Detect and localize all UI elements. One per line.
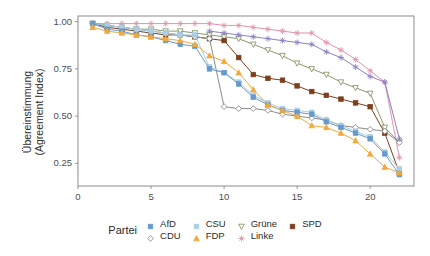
data-point-marker: [266, 76, 271, 81]
data-point-marker: [207, 36, 212, 41]
data-point-marker: [294, 39, 300, 45]
legend-marker-icon: [236, 218, 247, 229]
series-line: [210, 31, 400, 139]
data-point-marker: [90, 21, 95, 26]
legend-marker-icon: [145, 218, 156, 229]
data-point-marker: [309, 30, 315, 36]
data-point-marker: [207, 67, 212, 72]
legend-entry-fdp[interactable]: FDP: [191, 230, 226, 241]
data-point-marker: [250, 24, 256, 30]
data-point-marker: [207, 36, 213, 42]
data-point-marker: [236, 80, 241, 85]
legend-label: AfD: [160, 218, 176, 229]
chart-legend: Partei AfDCDUCSUFDPGrüneLinkeSPD: [0, 218, 430, 241]
data-point-marker: [163, 33, 168, 38]
data-point-marker: [382, 128, 388, 134]
data-point-marker: [382, 150, 387, 155]
series-linke: [90, 21, 403, 161]
legend-entry-grne[interactable]: Grüne: [236, 218, 277, 229]
data-point-marker: [134, 33, 139, 38]
data-point-marker: [90, 21, 96, 27]
data-point-marker: [353, 138, 359, 143]
x-tick-label: 10: [212, 191, 236, 202]
data-point-marker: [266, 101, 271, 106]
legend-marker-icon: [191, 218, 202, 229]
data-point-marker: [265, 48, 271, 53]
data-point-marker: [90, 21, 96, 27]
data-point-marker: [105, 25, 110, 30]
data-point-marker: [309, 41, 315, 47]
y-tick-label: 0.50: [38, 110, 72, 121]
data-point-marker: [134, 27, 140, 32]
data-point-marker: [104, 23, 110, 29]
data-point-marker: [163, 31, 168, 36]
series-csu: [90, 21, 401, 171]
data-point-marker: [396, 136, 402, 142]
data-point-marker: [368, 104, 373, 109]
data-point-marker: [250, 34, 256, 40]
data-point-marker: [309, 112, 314, 117]
data-point-marker: [192, 31, 198, 36]
series-fdp: [90, 24, 402, 175]
data-point-marker: [397, 170, 402, 175]
data-point-marker: [280, 78, 285, 83]
data-point-marker: [193, 236, 199, 241]
series-line: [93, 24, 400, 175]
data-point-marker: [194, 224, 199, 229]
y-tick-label: 0.25: [38, 157, 72, 168]
data-point-marker: [236, 106, 242, 112]
x-tick-label: 20: [358, 191, 382, 202]
legend-entry-cdu[interactable]: CDU: [145, 230, 181, 241]
data-point-marker: [280, 111, 286, 117]
data-point-marker: [353, 101, 358, 106]
data-point-marker: [397, 170, 403, 175]
data-point-marker: [104, 21, 110, 27]
data-point-marker: [207, 53, 213, 58]
data-point-marker: [382, 152, 387, 157]
data-point-marker: [265, 36, 271, 42]
data-point-marker: [265, 102, 271, 107]
y-tick-label: 1.00: [38, 16, 72, 27]
data-point-marker: [353, 131, 358, 136]
data-point-marker: [236, 32, 242, 38]
data-point-marker: [280, 108, 285, 113]
x-tick-label: 15: [285, 191, 309, 202]
data-point-marker: [148, 28, 154, 34]
data-point-marker: [323, 39, 329, 45]
data-point-marker: [148, 21, 154, 27]
data-point-marker: [90, 21, 95, 26]
data-point-marker: [382, 164, 388, 169]
data-point-marker: [134, 27, 139, 32]
data-point-marker: [134, 29, 139, 34]
data-point-marker: [338, 47, 344, 53]
data-point-marker: [119, 21, 125, 27]
data-point-marker: [338, 123, 344, 129]
data-point-marker: [206, 28, 212, 34]
data-point-marker: [120, 29, 125, 34]
data-point-marker: [251, 95, 256, 100]
series-extra-linkesecondary: [206, 28, 402, 142]
legend-entry-afd[interactable]: AfD: [145, 218, 181, 229]
legend-entry-linke[interactable]: Linke: [236, 230, 277, 241]
data-point-marker: [338, 55, 344, 61]
data-point-marker: [163, 29, 169, 34]
data-point-marker: [148, 27, 154, 32]
data-point-marker: [280, 38, 286, 44]
data-point-marker: [148, 34, 154, 39]
data-point-marker: [192, 21, 198, 27]
data-point-marker: [251, 72, 256, 77]
data-point-marker: [280, 53, 286, 58]
series-line: [93, 24, 400, 173]
data-point-marker: [295, 110, 300, 115]
legend-entry-spd[interactable]: SPD: [287, 218, 322, 229]
data-point-marker: [324, 72, 330, 77]
data-point-marker: [367, 151, 373, 156]
data-point-marker: [367, 91, 373, 96]
data-point-marker: [238, 224, 244, 229]
data-point-marker: [367, 126, 373, 132]
data-point-marker: [295, 84, 300, 89]
data-point-marker: [178, 33, 183, 38]
legend-entry-csu[interactable]: CSU: [191, 218, 226, 229]
series-spd: [90, 21, 401, 175]
y-tick-label: 0.75: [38, 63, 72, 74]
